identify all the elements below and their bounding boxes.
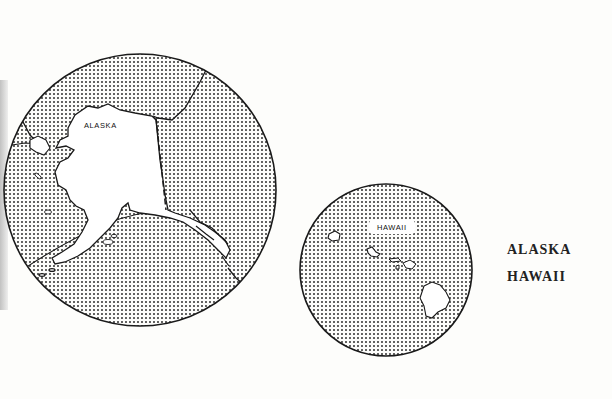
- map-legend: ALASKA HAWAII: [507, 236, 571, 290]
- hawaii-map-label: HAWAII: [377, 223, 407, 232]
- alaska-map-label: ALASKA: [84, 121, 117, 130]
- alaska-globe: ALASKA: [0, 54, 276, 326]
- molokai-island: [389, 258, 401, 262]
- hawaii-globe: HAWAII: [300, 184, 472, 356]
- inset-maps: ALASKA HAWAII: [0, 0, 612, 399]
- lanai-island: [396, 265, 399, 269]
- legend-item-alaska: ALASKA: [507, 236, 571, 263]
- legend-item-hawaii: HAWAII: [507, 263, 571, 290]
